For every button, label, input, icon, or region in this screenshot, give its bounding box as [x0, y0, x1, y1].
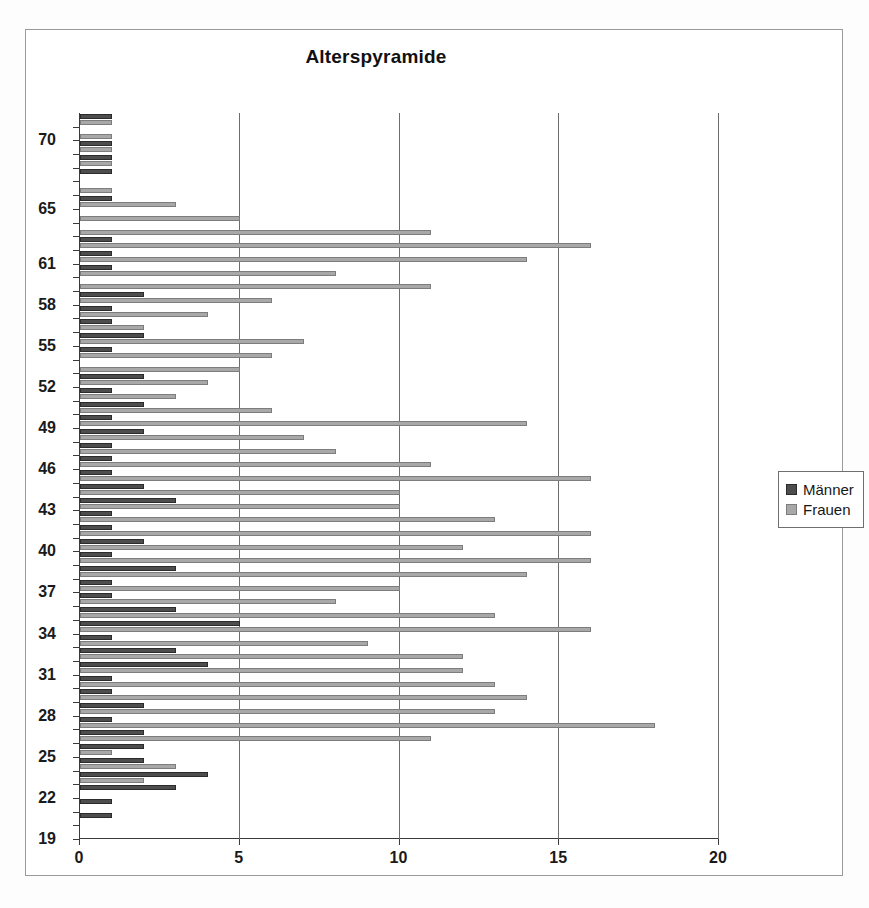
bar-maenner[interactable] — [80, 525, 112, 530]
bar-maenner[interactable] — [80, 265, 112, 270]
bar-maenner[interactable] — [80, 772, 208, 777]
bar-maenner[interactable] — [80, 703, 144, 708]
bar-maenner[interactable] — [80, 758, 144, 763]
bar-maenner[interactable] — [80, 717, 112, 722]
bar-maenner[interactable] — [80, 141, 112, 146]
bar-maenner[interactable] — [80, 498, 176, 503]
bar-frauen[interactable] — [80, 641, 368, 646]
bar-frauen[interactable] — [80, 545, 463, 550]
bar-maenner[interactable] — [80, 648, 176, 653]
bar-maenner[interactable] — [80, 593, 112, 598]
bar-maenner[interactable] — [80, 456, 112, 461]
bar-frauen[interactable] — [80, 449, 336, 454]
bar-frauen[interactable] — [80, 271, 336, 276]
bar-maenner[interactable] — [80, 155, 112, 160]
bar-frauen[interactable] — [80, 188, 112, 193]
bar-maenner[interactable] — [80, 388, 112, 393]
bar-maenner[interactable] — [80, 415, 112, 420]
bar-frauen[interactable] — [80, 298, 272, 303]
bar-maenner[interactable] — [80, 402, 144, 407]
bar-frauen[interactable] — [80, 202, 176, 207]
bar-frauen[interactable] — [80, 668, 463, 673]
bar-maenner[interactable] — [80, 621, 240, 626]
bar-frauen[interactable] — [80, 462, 431, 467]
bar-frauen[interactable] — [80, 421, 527, 426]
legend[interactable]: Männer Frauen — [778, 471, 864, 528]
legend-item-frauen[interactable]: Frauen — [786, 501, 854, 518]
bar-frauen[interactable] — [80, 435, 304, 440]
bar-maenner[interactable] — [80, 813, 112, 818]
bar-frauen[interactable] — [80, 394, 176, 399]
bar-maenner[interactable] — [80, 785, 176, 790]
bar-maenner[interactable] — [80, 319, 112, 324]
bar-maenner[interactable] — [80, 306, 112, 311]
bar-maenner[interactable] — [80, 169, 112, 174]
bar-maenner[interactable] — [80, 292, 144, 297]
bar-maenner[interactable] — [80, 237, 112, 242]
bar-frauen[interactable] — [80, 120, 112, 125]
bar-maenner[interactable] — [80, 676, 112, 681]
bar-frauen[interactable] — [80, 627, 591, 632]
bar-frauen[interactable] — [80, 312, 208, 317]
bar-frauen[interactable] — [80, 284, 431, 289]
bar-frauen[interactable] — [80, 558, 591, 563]
legend-item-maenner[interactable]: Männer — [786, 481, 854, 498]
bar-maenner[interactable] — [80, 730, 144, 735]
bar-frauen[interactable] — [80, 613, 495, 618]
bar-frauen[interactable] — [80, 709, 495, 714]
bar-frauen[interactable] — [80, 408, 272, 413]
bar-frauen[interactable] — [80, 531, 591, 536]
bar-frauen[interactable] — [80, 353, 272, 358]
bar-frauen[interactable] — [80, 339, 304, 344]
bar-frauen[interactable] — [80, 599, 336, 604]
bar-frauen[interactable] — [80, 723, 655, 728]
bar-maenner[interactable] — [80, 484, 144, 489]
bar-frauen[interactable] — [80, 134, 112, 139]
bar-frauen[interactable] — [80, 476, 591, 481]
bar-frauen[interactable] — [80, 380, 208, 385]
bar-maenner[interactable] — [80, 251, 112, 256]
bar-maenner[interactable] — [80, 114, 112, 119]
bar-frauen[interactable] — [80, 147, 112, 152]
bar-frauen[interactable] — [80, 736, 431, 741]
bar-frauen[interactable] — [80, 367, 240, 372]
bar-row — [80, 798, 719, 812]
bar-frauen[interactable] — [80, 778, 144, 783]
bar-frauen[interactable] — [80, 572, 527, 577]
bar-maenner[interactable] — [80, 799, 112, 804]
bar-maenner[interactable] — [80, 580, 112, 585]
bar-frauen[interactable] — [80, 216, 240, 221]
bar-maenner[interactable] — [80, 662, 208, 667]
bar-frauen[interactable] — [80, 682, 495, 687]
bar-maenner[interactable] — [80, 429, 144, 434]
bar-frauen[interactable] — [80, 161, 112, 166]
bar-maenner[interactable] — [80, 333, 144, 338]
bar-frauen[interactable] — [80, 230, 431, 235]
bar-frauen[interactable] — [80, 243, 591, 248]
bar-frauen[interactable] — [80, 504, 400, 509]
bar-frauen[interactable] — [80, 654, 463, 659]
bar-maenner[interactable] — [80, 607, 176, 612]
bar-frauen[interactable] — [80, 490, 400, 495]
bar-maenner[interactable] — [80, 539, 144, 544]
bar-maenner[interactable] — [80, 744, 144, 749]
bar-maenner[interactable] — [80, 552, 112, 557]
bar-maenner[interactable] — [80, 689, 112, 694]
bar-frauen[interactable] — [80, 257, 527, 262]
bar-frauen[interactable] — [80, 325, 144, 330]
bar-frauen[interactable] — [80, 764, 176, 769]
bar-frauen[interactable] — [80, 586, 400, 591]
bar-maenner[interactable] — [80, 443, 112, 448]
bar-maenner[interactable] — [80, 374, 144, 379]
bar-maenner[interactable] — [80, 566, 176, 571]
bar-frauen[interactable] — [80, 517, 495, 522]
bar-maenner[interactable] — [80, 635, 112, 640]
bar-frauen[interactable] — [80, 750, 112, 755]
bar-maenner[interactable] — [80, 511, 112, 516]
bar-frauen[interactable] — [80, 695, 527, 700]
bar-maenner[interactable] — [80, 347, 112, 352]
bar-maenner[interactable] — [80, 196, 112, 201]
bar-maenner[interactable] — [80, 470, 112, 475]
y-axis-tick — [73, 812, 79, 813]
bar-row — [80, 127, 719, 141]
